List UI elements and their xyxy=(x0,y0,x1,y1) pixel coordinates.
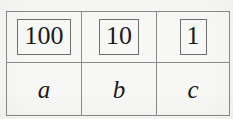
cell-ones-value: 1 xyxy=(157,12,230,63)
cell-hundreds-letter: a xyxy=(7,63,82,116)
boxed-number-ones: 1 xyxy=(180,19,207,55)
figure-canvas: 100 10 1 a b c xyxy=(0,0,233,119)
letter-a: a xyxy=(38,77,51,102)
table-row-place-values: 100 10 1 xyxy=(7,12,230,63)
table-row-digit-letters: a b c xyxy=(7,63,230,116)
letter-c: c xyxy=(187,77,198,102)
boxed-number-hundreds: 100 xyxy=(17,19,71,55)
cell-tens-value: 10 xyxy=(82,12,157,63)
cell-hundreds-value: 100 xyxy=(7,12,82,63)
cell-tens-letter: b xyxy=(82,63,157,116)
cell-ones-letter: c xyxy=(157,63,230,116)
letter-b: b xyxy=(113,77,126,102)
boxed-number-tens: 10 xyxy=(99,19,139,55)
place-value-table: 100 10 1 a b c xyxy=(6,11,230,116)
